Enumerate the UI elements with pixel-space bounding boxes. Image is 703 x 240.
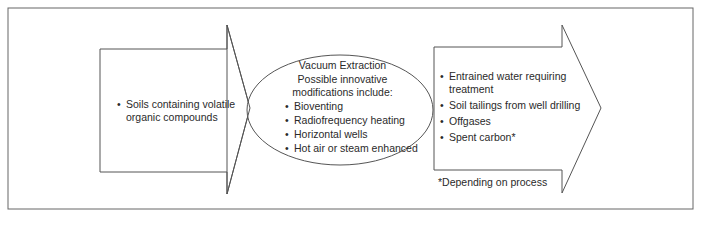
process-item: Bioventing [285,100,418,113]
process-title: Vacuum Extraction [275,59,410,72]
input-item: Soils containing volatileorganic compoun… [117,98,235,124]
output-item: Entrained water requiringtreatment [440,70,580,96]
output-item: Offgases [440,115,580,128]
process-subtitle-2: modifications include: [275,86,410,99]
process-heading: Vacuum Extraction Possible innovative mo… [275,59,410,99]
process-subtitle-1: Possible innovative [275,73,410,86]
output-item: Soil tailings from well drilling [440,99,580,112]
process-item: Horizontal wells [285,128,418,141]
input-text: Soils containing volatileorganic compoun… [117,98,235,124]
process-item: Hot air or steam enhanced [285,142,418,155]
process-list: Bioventing Radiofrequency heating Horizo… [285,100,418,155]
process-item: Radiofrequency heating [285,114,418,127]
output-item: Spent carbon* [440,131,580,144]
output-list: Entrained water requiringtreatment Soil … [440,70,580,144]
footnote: *Depending on process [438,176,547,189]
